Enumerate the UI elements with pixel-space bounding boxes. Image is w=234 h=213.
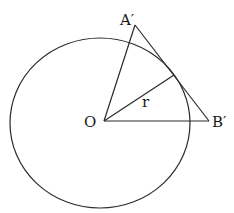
circle — [10, 38, 190, 208]
label-a-prime: A′ — [119, 11, 135, 29]
label-r: r — [142, 93, 150, 111]
geometry-diagram: A′ B′ O r — [0, 0, 234, 213]
label-b-prime: B′ — [212, 113, 227, 131]
radius-r — [104, 75, 174, 121]
label-o: O — [84, 113, 96, 131]
